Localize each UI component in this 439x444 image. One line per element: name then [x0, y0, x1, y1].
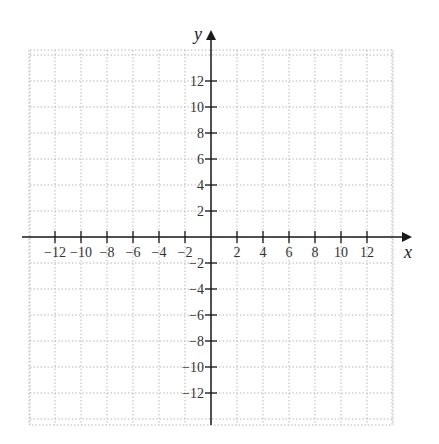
x-tick-label: −6 [126, 245, 141, 260]
y-axis-arrow-icon [206, 30, 216, 40]
x-tick-label: −4 [152, 245, 167, 260]
x-tick-label: −8 [100, 245, 115, 260]
y-tick-label: 4 [197, 178, 204, 193]
x-tick-label: 6 [286, 245, 293, 260]
y-tick-label: 12 [190, 74, 204, 89]
y-tick-label: −6 [189, 308, 204, 323]
coordinate-plane: −12−10−8−6−4−22468101212108642−2−4−6−8−1… [0, 0, 439, 444]
y-tick-label: −8 [189, 334, 204, 349]
x-tick-label: 12 [360, 245, 374, 260]
y-tick-label: −2 [189, 256, 204, 271]
y-tick-label: 10 [190, 100, 204, 115]
y-tick-label: −10 [182, 360, 204, 375]
x-axis-arrow-icon [402, 232, 412, 242]
x-tick-label: 4 [260, 245, 267, 260]
y-tick-label: −12 [182, 386, 204, 401]
y-tick-label: 2 [197, 204, 204, 219]
x-tick-label: 2 [234, 245, 241, 260]
y-tick-label: 6 [197, 152, 204, 167]
y-tick-label: 8 [197, 126, 204, 141]
y-axis-label: y [192, 24, 202, 44]
x-axis-label: x [403, 242, 412, 262]
x-tick-label: 8 [312, 245, 319, 260]
y-tick-label: −4 [189, 282, 204, 297]
x-tick-label: 10 [334, 245, 348, 260]
x-tick-label: −12 [44, 245, 66, 260]
x-tick-label: −10 [70, 245, 92, 260]
